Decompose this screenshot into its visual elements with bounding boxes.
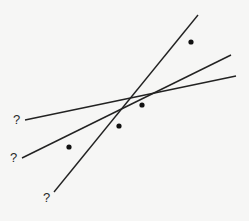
diagram-canvas: ? ? ? [0,0,249,221]
data-point [66,144,71,149]
data-point [116,123,121,128]
line-label-steep: ? [43,191,50,204]
fit-line-medium [22,55,231,158]
data-point [139,102,144,107]
line-label-shallow: ? [13,113,20,126]
regression-lines-plot [0,0,249,221]
line-label-medium: ? [10,151,17,164]
fit-line-steep [54,15,198,192]
data-point [188,39,193,44]
